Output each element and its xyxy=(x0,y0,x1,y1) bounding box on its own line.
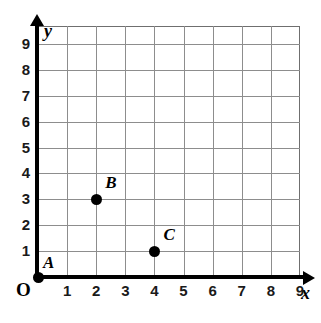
y-axis-label: y xyxy=(44,21,52,42)
y-tick-label: 3 xyxy=(12,191,30,207)
y-tick-label: 8 xyxy=(12,62,30,78)
gridline-vertical xyxy=(154,26,155,277)
grid-border-top xyxy=(38,26,300,27)
plotted-point-b[interactable] xyxy=(91,194,102,205)
point-label-c: C xyxy=(163,225,174,245)
coordinate-plane-figure: y x O 123456789123456789ABC xyxy=(0,0,321,323)
x-tick-label: 5 xyxy=(175,283,193,299)
gridline-vertical xyxy=(213,26,214,277)
x-tick-label: 1 xyxy=(58,283,76,299)
gridline-horizontal xyxy=(38,96,300,97)
x-tick-label: 2 xyxy=(87,283,105,299)
gridline-vertical xyxy=(67,26,68,277)
plotted-point-a[interactable] xyxy=(33,272,44,283)
y-tick-label: 9 xyxy=(12,36,30,52)
x-tick-label: 8 xyxy=(262,283,280,299)
y-tick-label: 4 xyxy=(12,165,30,181)
origin-label: O xyxy=(16,279,31,301)
gridline-vertical xyxy=(96,26,97,277)
gridline-horizontal xyxy=(38,70,300,71)
gridline-horizontal xyxy=(38,148,300,149)
x-tick-label: 7 xyxy=(233,283,251,299)
gridline-horizontal xyxy=(38,199,300,200)
gridline-horizontal xyxy=(38,122,300,123)
y-axis-arrow-icon xyxy=(30,14,44,26)
x-axis-line xyxy=(37,275,305,279)
gridline-horizontal xyxy=(38,173,300,174)
gridline-vertical xyxy=(184,26,185,277)
y-tick-label: 6 xyxy=(12,114,30,130)
point-label-b: B xyxy=(105,173,116,193)
point-label-a: A xyxy=(43,253,54,273)
x-tick-label: 4 xyxy=(145,283,163,299)
x-tick-label: 3 xyxy=(116,283,134,299)
gridline-vertical xyxy=(125,26,126,277)
gridline-horizontal xyxy=(38,44,300,45)
y-axis-line xyxy=(35,24,39,279)
gridline-horizontal xyxy=(38,251,300,252)
gridline-vertical xyxy=(242,26,243,277)
y-tick-label: 7 xyxy=(12,88,30,104)
x-tick-label: 6 xyxy=(204,283,222,299)
gridline-vertical xyxy=(271,26,272,277)
x-tick-label: 9 xyxy=(291,283,309,299)
y-tick-label: 2 xyxy=(12,217,30,233)
plotted-point-c[interactable] xyxy=(149,246,160,257)
y-tick-label: 5 xyxy=(12,140,30,156)
y-tick-label: 1 xyxy=(12,243,30,259)
